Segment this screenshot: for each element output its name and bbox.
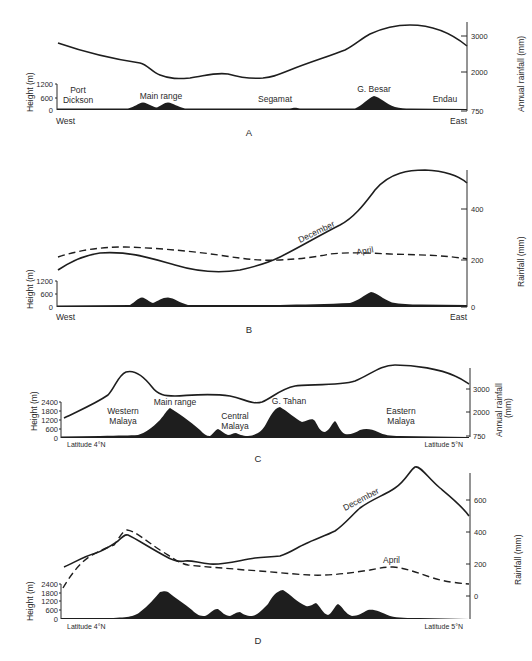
- a-dickson: Dickson: [63, 95, 94, 105]
- a-tick-600: 600: [40, 94, 53, 103]
- panel-d-title: D: [255, 635, 262, 646]
- panel-b-title: B: [246, 324, 252, 335]
- c-tick-1800: 1800: [41, 407, 58, 416]
- panel-b-terrain: [57, 292, 467, 307]
- d-lat5: Latitude 5°N: [424, 623, 463, 630]
- c-tick-1200: 1200: [41, 416, 58, 425]
- d-height-label: Height (m): [25, 581, 35, 621]
- c-lat4: Latitude 4°N: [67, 441, 106, 448]
- c-g-tahan: G. Tahan: [272, 396, 307, 406]
- b-december-label: December: [296, 219, 336, 245]
- panel-d-april-line: [63, 530, 469, 588]
- a-tick-3000: 3000: [471, 32, 488, 41]
- c-eastern: Eastern: [386, 406, 416, 416]
- d-tick-1200: 1200: [41, 597, 58, 606]
- d-tick-2400: 2400: [41, 580, 58, 589]
- d-tick-200r: 200: [474, 560, 487, 569]
- d-tick-0: 0: [54, 615, 58, 624]
- figure: 1200 600 0 3000 2000 750 Height (m) Annu…: [0, 0, 532, 661]
- panel-d: 2400 1800 1200 600 0 600 400 200 0 Heigh…: [25, 467, 523, 646]
- panel-d-terrain: [61, 590, 469, 619]
- panel-c-title: C: [255, 453, 262, 464]
- d-lat4: Latitude 4°N: [67, 623, 106, 630]
- a-height-label: Height (m): [25, 72, 35, 112]
- panel-b: 1200 600 0 400 200 0 Height (m) Rainfall…: [25, 170, 526, 335]
- a-segamat: Segamat: [258, 94, 293, 104]
- c-tick-600: 600: [45, 425, 58, 434]
- b-west: West: [56, 312, 76, 322]
- c-eastern-malaya: Malaya: [387, 416, 415, 426]
- d-rainfall-label: Rainfall (mm): [513, 534, 523, 585]
- panel-a: 1200 600 0 3000 2000 750 Height (m) Annu…: [25, 22, 526, 138]
- c-tick-2400: 2400: [41, 398, 58, 407]
- a-tick-750: 750: [471, 107, 484, 116]
- panel-b-december-line: [58, 170, 467, 272]
- d-tick-600: 600: [45, 606, 58, 615]
- a-east: East: [450, 116, 468, 126]
- c-central: Central: [221, 411, 249, 421]
- c-main-range: Main range: [154, 397, 197, 407]
- a-tick-0: 0: [49, 106, 53, 115]
- c-western-malaya: Malaya: [109, 416, 137, 426]
- c-central-malaya: Malaya: [221, 421, 249, 431]
- d-tick-400r: 400: [474, 528, 487, 537]
- c-tick-3000: 3000: [473, 385, 490, 394]
- b-rainfall-label: Rainfall (mm): [516, 236, 526, 287]
- a-west: West: [56, 116, 76, 126]
- a-port: Port: [70, 85, 86, 95]
- a-rainfall-label: Annual rainfall (mm): [516, 36, 526, 112]
- c-western: Western: [107, 406, 139, 416]
- panel-a-rainfall-line: [58, 25, 467, 79]
- b-tick-200: 200: [471, 256, 484, 265]
- b-tick-0r: 0: [471, 303, 475, 312]
- c-tick-2000: 2000: [473, 408, 490, 417]
- a-main-range: Main range: [140, 91, 183, 101]
- a-tick-2000: 2000: [471, 68, 488, 77]
- c-tick-0: 0: [54, 434, 58, 443]
- a-tick-1200: 1200: [36, 80, 53, 89]
- c-rainfall-label-2: (mm): [503, 398, 513, 418]
- b-tick-600: 600: [40, 290, 53, 299]
- a-g-besar: G. Besar: [357, 84, 391, 94]
- b-tick-400: 400: [471, 205, 484, 214]
- c-tick-750: 750: [473, 432, 486, 441]
- c-lat5: Latitude 5°N: [424, 441, 463, 448]
- d-tick-600r: 600: [474, 496, 487, 505]
- panel-c: 2400 1800 1200 600 0 3000 2000 750 Heigh…: [29, 365, 513, 464]
- b-tick-1200: 1200: [36, 277, 53, 286]
- b-east: East: [450, 312, 468, 322]
- a-endau: Endau: [433, 94, 458, 104]
- panel-d-december-line: [64, 467, 469, 567]
- d-tick-0r: 0: [474, 592, 478, 601]
- b-april-label: April: [356, 244, 375, 257]
- b-tick-0: 0: [49, 303, 53, 312]
- d-april-label: April: [383, 555, 400, 565]
- panel-a-title: A: [246, 127, 253, 138]
- c-height-label: Height (m): [29, 391, 39, 431]
- b-height-label: Height (m): [25, 269, 35, 309]
